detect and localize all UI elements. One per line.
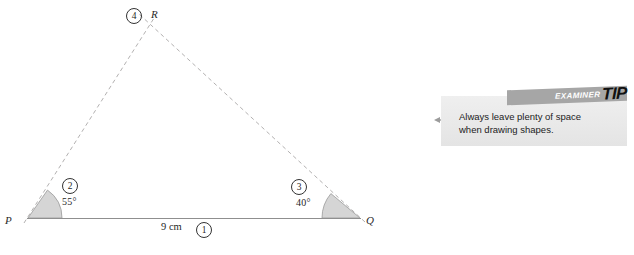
examiner-tip-banner: EXAMINER TIP [555, 88, 627, 103]
examiner-tip-text-line1: Always leave plenty of space [459, 110, 619, 123]
construction-line-from-q [139, 14, 365, 222]
examiner-tip-banner-prefix: EXAMINER [555, 90, 600, 101]
construction-line-from-p [24, 15, 156, 223]
vertex-q-label: Q [366, 214, 374, 226]
examiner-tip-banner-word: TIP [602, 83, 627, 104]
figure-canvas: P Q R 4 2 3 1 55° 40° 9 cm EXAMINER TIP … [0, 0, 634, 255]
step-marker-2: 2 [62, 178, 78, 194]
angle-marker-q [322, 194, 360, 218]
step-marker-3: 3 [291, 179, 307, 195]
vertex-p-label: P [5, 214, 12, 226]
base-length-label: 9 cm [161, 221, 182, 232]
examiner-tip-text: Always leave plenty of space when drawin… [459, 110, 619, 136]
angle-value-q: 40° [296, 197, 311, 208]
angle-value-p: 55° [62, 196, 77, 207]
step-marker-1: 1 [196, 222, 212, 238]
examiner-tip-text-line2: when drawing shapes. [459, 123, 619, 136]
angle-marker-p [28, 190, 62, 218]
examiner-tip-box: EXAMINER TIP Always leave plenty of spac… [441, 96, 627, 146]
vertex-r-label: R [151, 8, 158, 20]
step-marker-4: 4 [126, 8, 142, 24]
